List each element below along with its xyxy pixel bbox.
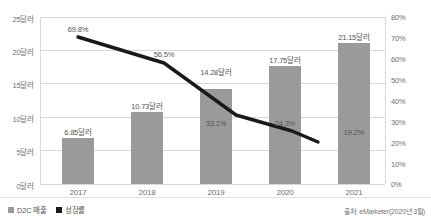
legend-item-growth-rate[interactable]: 성장률: [56, 204, 85, 215]
legend-swatch-icon-bar: [8, 207, 14, 213]
axis-baseline: [40, 184, 385, 185]
legend-label-d2c-sales: D2C 매출: [17, 204, 47, 215]
y-right-tick-20: 20%: [391, 139, 421, 148]
y-left-tick-10: 10달러: [0, 113, 34, 124]
pct-label-2020: 24.3%: [255, 119, 315, 128]
y-axis-right-line: [385, 17, 386, 184]
legend-swatch-icon-line: [56, 207, 62, 213]
gridline-20: [40, 50, 385, 51]
y-right-tick-0: 0%: [391, 180, 421, 189]
y-axis-left-line: [40, 17, 41, 184]
bar-2017[interactable]: [62, 138, 94, 184]
bar-2019[interactable]: [200, 89, 232, 184]
x-axis-label-2017: 2017: [48, 188, 108, 197]
y-left-tick-20: 20달러: [0, 46, 34, 57]
chart-legend: D2C 매출 성장률: [8, 204, 85, 215]
x-axis-label-2018: 2018: [117, 188, 177, 197]
x-axis-label-2021: 2021: [324, 188, 384, 197]
bar-value-label-2021: 21.15달러: [324, 31, 384, 42]
bar-value-label-2019: 14.28달러: [186, 66, 246, 77]
x-axis-label-2020: 2020: [255, 188, 315, 197]
y-right-tick-80: 80%: [391, 13, 421, 22]
y-right-tick-60: 60%: [391, 55, 421, 64]
y-right-tick-40: 40%: [391, 97, 421, 106]
bar-2021[interactable]: [338, 43, 370, 184]
pct-label-2018: 56.5%: [134, 50, 194, 59]
footer-divider: [0, 197, 431, 198]
gridline-15: [40, 83, 385, 84]
bar-value-label-2017: 6.85달러: [48, 126, 108, 137]
y-right-tick-30: 30%: [391, 118, 421, 127]
y-right-tick-50: 50%: [391, 76, 421, 85]
chart-container: 25달러 20달러 15달러 10달러 5달러 0달러 80% 70% 60% …: [0, 0, 431, 221]
y-left-tick-15: 15달러: [0, 79, 34, 90]
legend-label-growth-rate: 성장률: [65, 204, 85, 215]
y-left-tick-0: 0달러: [0, 180, 34, 191]
source-attribution: 출처: eMarketer(2020년 3월): [344, 206, 425, 216]
pct-label-2017: 69.8%: [48, 25, 108, 34]
y-left-tick-5: 5달러: [0, 146, 34, 157]
pct-label-2021: 19.2%: [324, 128, 384, 137]
y-right-tick-70: 70%: [391, 34, 421, 43]
legend-item-d2c-sales[interactable]: D2C 매출: [8, 204, 47, 215]
gridline-25: [40, 17, 385, 18]
x-axis-label-2019: 2019: [186, 188, 246, 197]
bar-2018[interactable]: [131, 112, 163, 184]
y-left-tick-25: 25달러: [0, 13, 34, 24]
bar-value-label-2020: 17.75달러: [255, 54, 315, 65]
y-right-tick-10: 10%: [391, 160, 421, 169]
bar-value-label-2018: 10.73달러: [117, 100, 177, 111]
pct-label-2019: 33.1%: [186, 119, 246, 128]
